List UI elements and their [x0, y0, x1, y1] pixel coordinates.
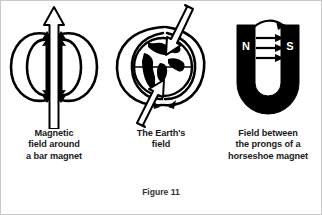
caption-line: field — [108, 139, 214, 150]
horseshoe-magnet-artwork: N S — [215, 1, 321, 129]
horseshoe-north-label: N — [242, 40, 250, 52]
caption-line: Magnetic — [1, 128, 107, 139]
panel-bar-magnet: N S Magnetic field around a bar magnet — [1, 1, 107, 181]
earth-field-artwork — [108, 1, 214, 129]
caption-line: a bar magnet — [1, 151, 107, 162]
panel-earth-field: The Earth's field — [108, 1, 214, 181]
earth-field-caption: The Earth's field — [108, 128, 214, 151]
bar-magnet-artwork: N S — [1, 1, 107, 129]
caption-line: field around — [1, 139, 107, 150]
horseshoe-magnet-caption: Field between the prongs of a horseshoe … — [215, 128, 321, 162]
figure-11-illustration: N S Magnetic field around a bar magnet — [0, 0, 322, 215]
caption-line: Field between — [215, 128, 321, 139]
caption-line: The Earth's — [108, 128, 214, 139]
caption-line: horseshoe magnet — [215, 151, 321, 162]
caption-line: the prongs of a — [215, 139, 321, 150]
figure-caption: Figure 11 — [1, 187, 321, 197]
horseshoe-south-label: S — [286, 40, 293, 52]
panel-horseshoe-magnet: N S Field b — [215, 1, 321, 181]
panel-row: N S Magnetic field around a bar magnet — [1, 1, 321, 181]
bar-magnet-caption: Magnetic field around a bar magnet — [1, 128, 107, 162]
